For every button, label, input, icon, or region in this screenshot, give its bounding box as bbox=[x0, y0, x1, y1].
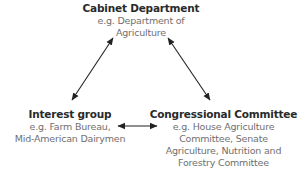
node-example-line: Mid-American Dairymen bbox=[0, 133, 140, 145]
node-congressional-committee: Congressional Committee e.g. House Agric… bbox=[148, 108, 299, 169]
node-example-line: e.g. House Agriculture bbox=[148, 121, 299, 133]
node-title: Interest group bbox=[0, 108, 140, 121]
node-example-line: Committee, Senate bbox=[148, 133, 299, 145]
node-cabinet-department: Cabinet Department e.g. Department of Ag… bbox=[60, 2, 222, 39]
arrow-cabinet-interest bbox=[72, 38, 113, 100]
node-title: Cabinet Department bbox=[60, 2, 222, 15]
node-interest-group: Interest group e.g. Farm Bureau, Mid-Ame… bbox=[0, 108, 140, 145]
node-example-line: Agriculture bbox=[60, 27, 222, 39]
node-example-line: e.g. Farm Bureau, bbox=[0, 121, 140, 133]
node-example-line: e.g. Department of bbox=[60, 15, 222, 27]
node-example-line: Forestry Committee bbox=[148, 157, 299, 169]
node-title: Congressional Committee bbox=[148, 108, 299, 121]
node-example-line: Agriculture, Nutrition and bbox=[148, 145, 299, 157]
arrow-cabinet-congress bbox=[168, 38, 210, 100]
